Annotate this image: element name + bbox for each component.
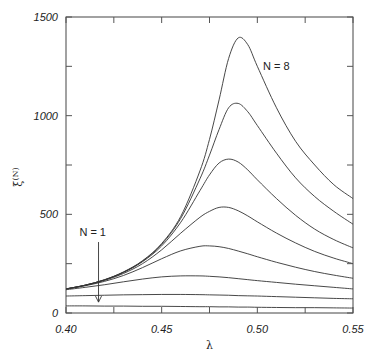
annotation-label: N = 8 bbox=[263, 60, 290, 72]
y-tick-label: 1500 bbox=[34, 11, 59, 23]
x-tick-label: 0.45 bbox=[151, 323, 173, 335]
x-tick-label: 0.40 bbox=[55, 323, 77, 335]
series-line-n4 bbox=[66, 246, 353, 289]
y-tick-label: 0 bbox=[52, 307, 59, 319]
y-tick-label: 1000 bbox=[34, 110, 59, 122]
x-tick-label: 0.50 bbox=[247, 323, 269, 335]
x-axis-ticks: 0.400.450.500.55 bbox=[55, 17, 364, 335]
series-line-n2 bbox=[66, 294, 353, 298]
y-tick-label: 500 bbox=[40, 208, 59, 220]
line-chart: 0.400.450.500.55 050010001500 λ ξ(N) N =… bbox=[0, 0, 376, 358]
x-axis-label: λ bbox=[206, 339, 213, 352]
x-tick-label: 0.55 bbox=[342, 323, 364, 335]
plot-frame bbox=[66, 17, 353, 313]
annotation-label: N = 1 bbox=[79, 226, 106, 238]
series-line-n7 bbox=[66, 103, 353, 289]
y-axis-ticks: 050010001500 bbox=[34, 11, 353, 319]
data-series bbox=[66, 37, 353, 308]
series-line-n6 bbox=[66, 159, 353, 289]
series-line-n8 bbox=[66, 37, 353, 289]
y-axis-label: ξ(N) bbox=[11, 167, 25, 186]
